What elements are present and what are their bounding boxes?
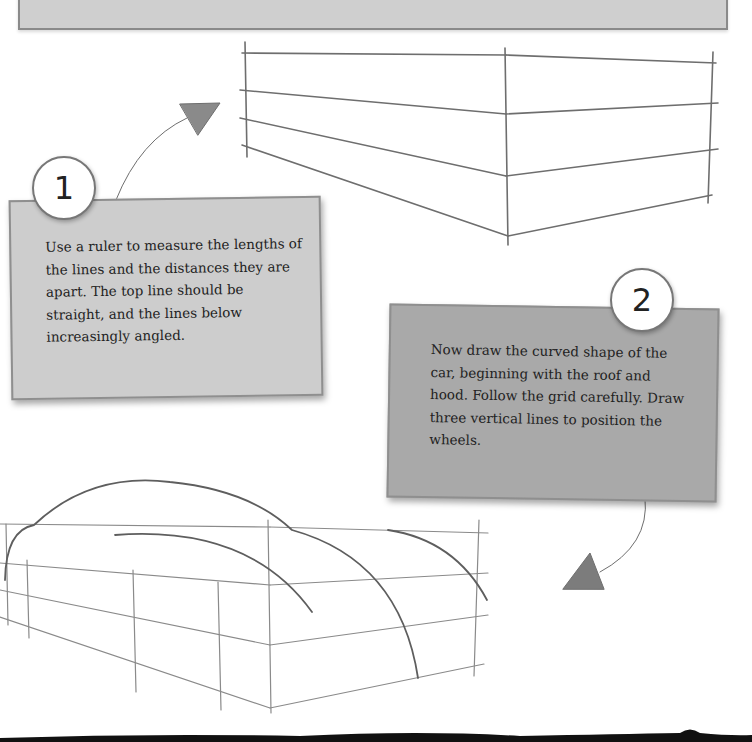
step-1-badge: 1 bbox=[32, 156, 96, 220]
step-1-number: 1 bbox=[54, 169, 74, 207]
step-2-badge: 2 bbox=[610, 268, 674, 332]
car-body-curves bbox=[5, 480, 487, 678]
step-2-text: Now draw the curved shape of the car, be… bbox=[429, 338, 691, 455]
bottom-border bbox=[0, 730, 752, 742]
arrow-step-1 bbox=[116, 103, 220, 200]
step-2-note: Now draw the curved shape of the car, be… bbox=[386, 303, 719, 502]
step-1-text: Use a ruler to measure the lengths of th… bbox=[45, 232, 307, 348]
car-grid-drawing bbox=[0, 520, 488, 713]
step-1-note: Use a ruler to measure the lengths of th… bbox=[9, 196, 324, 400]
step-2-number: 2 bbox=[632, 281, 652, 319]
arrow-step-2 bbox=[563, 498, 645, 589]
